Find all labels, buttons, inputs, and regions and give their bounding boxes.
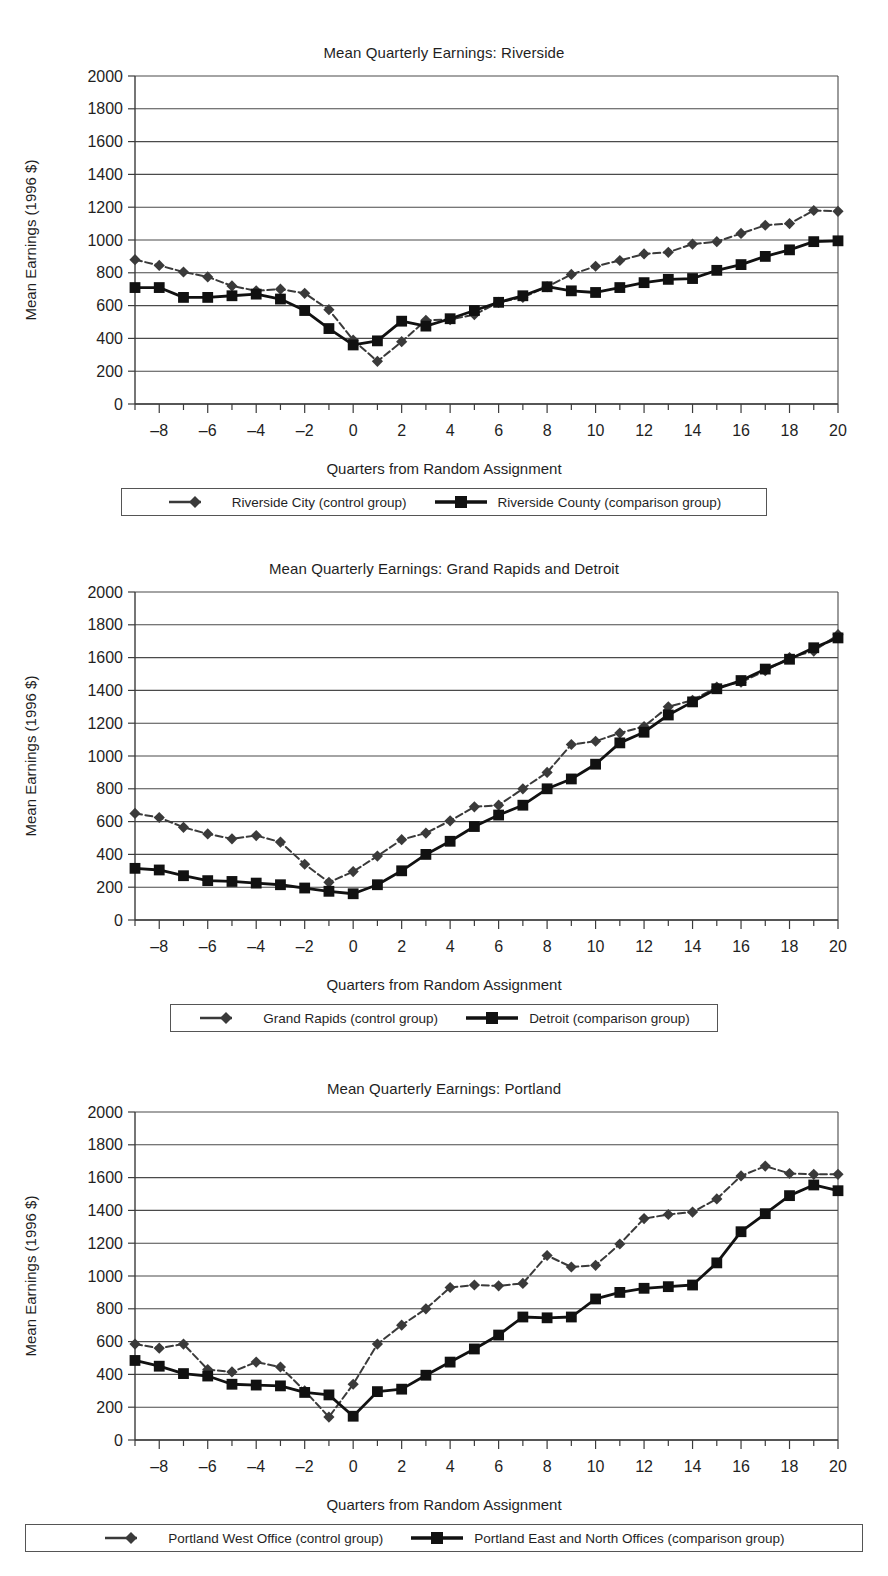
x-tick-label: –6 (199, 422, 217, 439)
data-point-marker (324, 323, 335, 334)
y-tick-label: 1600 (87, 649, 123, 666)
data-point-marker (178, 266, 189, 277)
data-point-marker (808, 236, 819, 247)
y-tick-label: 1800 (87, 1136, 123, 1153)
data-point-marker (154, 260, 165, 271)
x-axis-label: Quarters from Random Assignment (0, 975, 888, 995)
x-tick-label: 2 (397, 938, 406, 955)
x-tick-label: 10 (587, 1458, 605, 1475)
x-tick-label: –2 (296, 422, 314, 439)
data-point-marker (663, 710, 674, 721)
data-point-marker (517, 1312, 528, 1323)
x-tick-label: 12 (635, 938, 653, 955)
data-point-marker (445, 815, 456, 826)
x-tick-label: 12 (635, 1458, 653, 1475)
figure-page: Mean Quarterly Earnings: Riverside Mean … (0, 0, 888, 1576)
legend-label: Grand Rapids (control group) (261, 1011, 438, 1026)
data-point-marker (638, 248, 649, 259)
data-point-marker (566, 269, 577, 280)
x-tick-label: –2 (296, 1458, 314, 1475)
data-point-marker (275, 1380, 286, 1391)
plot-area-wrapper: Mean Earnings (1996 $) 02004006008001000… (0, 64, 888, 459)
data-point-marker (178, 822, 189, 833)
data-point-marker (445, 313, 456, 324)
data-point-marker (711, 683, 722, 694)
data-point-marker (202, 1371, 213, 1382)
x-tick-label: 18 (781, 1458, 799, 1475)
plot-area-wrapper: Mean Earnings (1996 $) 02004006008001000… (0, 1100, 888, 1495)
chart-legend: Grand Rapids (control group)Detroit (com… (170, 1004, 718, 1032)
x-tick-label: –8 (150, 422, 168, 439)
data-point-marker (711, 1257, 722, 1268)
x-axis-label: Quarters from Random Assignment (0, 1495, 888, 1515)
legend-label: Riverside County (comparison group) (496, 495, 722, 510)
x-tick-label: 14 (684, 938, 702, 955)
data-point-marker (372, 879, 383, 890)
y-tick-label: 1800 (87, 100, 123, 117)
legend-square-icon (433, 494, 489, 510)
y-tick-label: 400 (96, 1366, 123, 1383)
chart-legend: Riverside City (control group)Riverside … (121, 488, 767, 516)
x-tick-label: 20 (829, 1458, 847, 1475)
data-point-marker (493, 800, 504, 811)
data-point-marker (711, 236, 722, 247)
x-tick-label: 14 (684, 422, 702, 439)
x-tick-label: 8 (543, 938, 552, 955)
series-line (135, 1166, 838, 1417)
data-point-marker (687, 1280, 698, 1291)
data-point-marker (760, 251, 771, 262)
data-point-marker (784, 218, 795, 229)
x-tick-label: 6 (494, 1458, 503, 1475)
data-point-marker (275, 837, 286, 848)
y-tick-label: 1000 (87, 1268, 123, 1285)
y-tick-label: 1200 (87, 1235, 123, 1252)
y-tick-label: 200 (96, 363, 123, 380)
data-point-marker (396, 1384, 407, 1395)
data-point-marker (808, 205, 819, 216)
data-point-marker (517, 783, 528, 794)
data-point-marker (130, 863, 141, 874)
data-point-marker (808, 1180, 819, 1191)
chart-panel-grand-rapids-detroit: Mean Quarterly Earnings: Grand Rapids an… (0, 558, 888, 1032)
y-tick-label: 800 (96, 1300, 123, 1317)
data-point-marker (833, 1185, 844, 1196)
data-point-marker (227, 876, 238, 887)
data-point-marker (590, 759, 601, 770)
data-point-marker (736, 259, 747, 270)
data-point-marker (614, 737, 625, 748)
data-point-marker (493, 810, 504, 821)
data-point-marker (832, 1169, 843, 1180)
y-tick-label: 200 (96, 879, 123, 896)
y-tick-label: 0 (114, 912, 123, 929)
data-point-marker (590, 736, 601, 747)
data-point-marker (590, 287, 601, 298)
data-point-marker (372, 1386, 383, 1397)
data-point-marker (348, 1411, 359, 1422)
data-point-marker (202, 292, 213, 303)
data-point-marker (711, 265, 722, 276)
data-point-marker (469, 1344, 480, 1355)
data-point-marker (469, 801, 480, 812)
y-tick-label: 800 (96, 780, 123, 797)
y-tick-label: 1200 (87, 199, 123, 216)
data-point-marker (833, 235, 844, 246)
x-tick-label: 18 (781, 422, 799, 439)
y-tick-label: 200 (96, 1399, 123, 1416)
x-tick-label: 4 (446, 938, 455, 955)
data-point-marker (493, 297, 504, 308)
x-tick-label: 16 (732, 938, 750, 955)
data-point-marker (493, 1280, 504, 1291)
data-point-marker (614, 255, 625, 266)
data-point-marker (348, 340, 359, 351)
data-point-marker (372, 335, 383, 346)
x-tick-label: 8 (543, 1458, 552, 1475)
chart-legend: Portland West Office (control group)Port… (25, 1524, 863, 1552)
data-point-marker (736, 675, 747, 686)
legend-entry: Grand Rapids (control group) (198, 1010, 438, 1026)
data-point-marker (251, 1357, 262, 1368)
data-point-marker (154, 865, 165, 876)
data-point-marker (590, 1260, 601, 1271)
legend-label: Riverside City (control group) (230, 495, 407, 510)
data-point-marker (420, 1370, 431, 1381)
x-tick-label: –6 (199, 1458, 217, 1475)
